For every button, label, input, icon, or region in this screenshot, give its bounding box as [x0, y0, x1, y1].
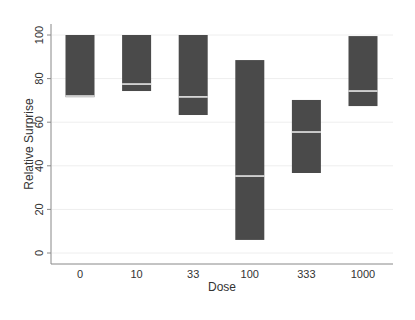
y-tick-label: 100 [33, 26, 45, 44]
x-tick-label: 0 [77, 268, 83, 280]
x-ticks: 010331003331000 [77, 268, 375, 280]
box-body [179, 35, 208, 115]
box-plot: 020406080100 010331003331000 Dose Relati… [0, 0, 415, 320]
y-tick-label: 0 [33, 250, 45, 256]
box-100 [235, 60, 264, 240]
x-tick-label: 1000 [351, 268, 375, 280]
box-33 [179, 35, 208, 115]
box-body [349, 36, 378, 106]
x-tick-label: 333 [297, 268, 315, 280]
grid-lines [52, 35, 393, 253]
x-tick-label: 33 [187, 268, 199, 280]
x-tick-label: 100 [241, 268, 259, 280]
y-tick-label: 80 [33, 72, 45, 84]
x-tick-label: 10 [130, 268, 142, 280]
box-10 [122, 35, 151, 91]
box-1000 [349, 36, 378, 106]
box-body [122, 35, 151, 91]
axes [51, 24, 393, 264]
box-0 [66, 35, 95, 97]
box-body [66, 35, 95, 97]
y-axis-title: Relative Surprise [22, 98, 36, 190]
x-axis-title: Dose [208, 280, 236, 294]
y-tick-label: 20 [33, 203, 45, 215]
box-body [235, 60, 264, 240]
box-333 [292, 100, 321, 173]
box-body [292, 100, 321, 173]
